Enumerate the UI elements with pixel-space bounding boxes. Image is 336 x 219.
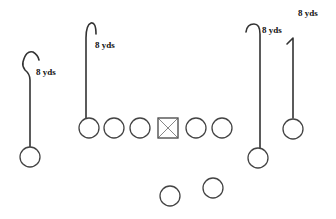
route-label-right-te: 8 yds [262,25,282,35]
player-right-guard [186,118,206,138]
play-diagram: 8 yds 8 yds 8 yds 8 yds [0,0,336,219]
route-left-slot [86,23,96,118]
route-label-left-slot: 8 yds [95,40,115,50]
player-left-tackle [104,118,124,138]
player-right-te [248,148,268,168]
player-left-wr [20,147,40,167]
route-label-right-wr: 8 yds [298,8,318,18]
player-back-right [203,178,223,198]
route-label-left-wr: 8 yds [36,67,56,77]
player-right-tackle [212,118,232,138]
route-right-te [246,24,260,148]
player-back-left [160,186,180,206]
player-left-end [79,118,99,138]
route-left-wr [23,52,39,147]
player-right-wr [283,119,303,139]
route-right-wr [287,38,293,118]
player-center [158,118,178,138]
player-left-guard [130,118,150,138]
